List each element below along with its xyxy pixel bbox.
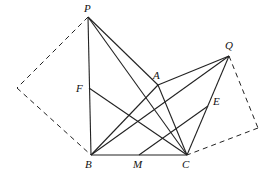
- label-B: B: [85, 158, 92, 170]
- label-P: P: [83, 2, 91, 14]
- label-F: F: [75, 82, 83, 94]
- segment-PB: [88, 17, 91, 155]
- segment-BA: [91, 85, 158, 155]
- label-C: C: [182, 158, 190, 170]
- segment-PA: [88, 17, 158, 85]
- label-Q: Q: [225, 39, 233, 51]
- segment-LB: [17, 88, 91, 155]
- segment-QR: [229, 56, 258, 128]
- label-A: A: [152, 69, 160, 81]
- segment-PC: [88, 17, 187, 155]
- segment-RC: [187, 128, 258, 155]
- solid-segments: [88, 17, 229, 155]
- label-M: M: [132, 158, 143, 170]
- segment-PL: [17, 17, 88, 88]
- segment-FC: [89, 88, 187, 155]
- label-E: E: [212, 95, 220, 107]
- geometry-diagram: PAQFEBMC: [0, 0, 273, 174]
